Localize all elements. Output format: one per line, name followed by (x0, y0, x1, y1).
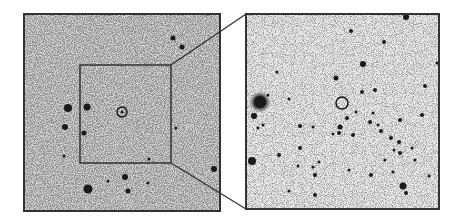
star (84, 104, 91, 111)
star (392, 171, 395, 174)
star (377, 124, 380, 127)
star (257, 127, 260, 130)
wide-field-panel (24, 14, 220, 211)
star (126, 189, 131, 194)
star (298, 146, 302, 150)
star (251, 113, 257, 119)
star (107, 180, 110, 183)
star (267, 94, 270, 97)
star (397, 140, 401, 144)
star (372, 112, 375, 115)
star (147, 182, 150, 185)
star (175, 127, 178, 130)
star (82, 131, 87, 136)
zoomed-field-panel (246, 14, 439, 212)
star (349, 29, 353, 33)
star (423, 84, 427, 88)
star (334, 76, 339, 81)
star (355, 111, 358, 114)
star (63, 155, 66, 158)
star (373, 88, 377, 92)
star (398, 118, 402, 122)
star (360, 61, 366, 67)
star (313, 193, 317, 197)
star (404, 191, 408, 195)
star (345, 116, 349, 120)
star (148, 158, 151, 161)
star (393, 149, 396, 152)
star (64, 104, 72, 112)
star (360, 90, 364, 94)
star (384, 159, 387, 162)
sky-noise-texture (246, 14, 439, 209)
star (262, 124, 265, 127)
star (368, 120, 372, 124)
star (398, 151, 402, 155)
star (84, 185, 93, 194)
star (420, 113, 424, 117)
star (62, 124, 68, 130)
star (312, 166, 315, 169)
star (180, 45, 185, 50)
star (122, 174, 128, 180)
star (298, 124, 302, 128)
star (337, 131, 341, 135)
star (276, 71, 279, 74)
star (348, 169, 351, 172)
finder-chart-svg (0, 0, 462, 221)
star (288, 98, 291, 101)
finder-chart-figure (0, 0, 462, 221)
star (121, 111, 124, 114)
star (332, 133, 335, 136)
star (382, 40, 386, 44)
star (297, 165, 300, 168)
star (318, 161, 321, 164)
star (379, 129, 383, 133)
star (171, 36, 176, 41)
star (369, 173, 373, 177)
star (254, 96, 266, 108)
star (389, 136, 393, 140)
star (414, 159, 417, 162)
star (428, 175, 431, 178)
star (248, 157, 256, 165)
star (411, 147, 414, 150)
star (288, 190, 291, 193)
star (211, 166, 217, 172)
star (312, 126, 315, 129)
star (313, 173, 317, 177)
star (338, 125, 343, 130)
star (351, 133, 355, 137)
star (277, 153, 281, 157)
star (400, 183, 407, 190)
